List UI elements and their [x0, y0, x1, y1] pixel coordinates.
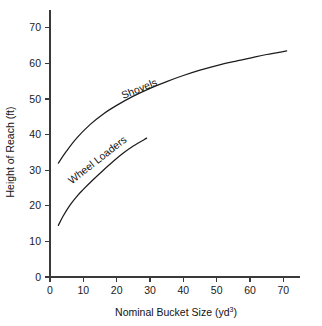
series-group: [58, 51, 286, 225]
x-tick-label: 50: [211, 284, 223, 296]
x-tick-label: 70: [277, 284, 289, 296]
y-tick-label: 20: [29, 199, 41, 211]
y-tick-labels-group: 010203040506070: [29, 21, 41, 282]
y-tick-label: 10: [29, 235, 41, 247]
x-tick-label: 10: [77, 284, 89, 296]
y-tick-label: 30: [29, 164, 41, 176]
x-tick-label: 40: [177, 284, 189, 296]
x-tick-labels-group: 010203040506070: [47, 284, 289, 296]
x-axis-title: Nominal Bucket Size (yd3): [115, 306, 237, 318]
series-curve-shovels: [58, 51, 286, 163]
x-axis-title-base: Nominal Bucket Size (yd: [115, 306, 230, 318]
y-tick-label: 40: [29, 128, 41, 140]
x-tick-label: 0: [47, 284, 53, 296]
x-axis-title-suffix: ): [233, 306, 237, 318]
y-tick-label: 0: [35, 271, 41, 283]
x-tick-label: 30: [144, 284, 156, 296]
series-labels-group: ShovelsWheel Loaders: [66, 76, 159, 186]
y-tick-label: 70: [29, 21, 41, 33]
x-tick-label: 60: [244, 284, 256, 296]
y-axis-title: Height of Reach (ft): [4, 106, 16, 197]
chart-plot: 010203040506070 010203040506070 ShovelsW…: [0, 0, 322, 326]
x-tick-label: 20: [111, 284, 123, 296]
axes-group: [45, 10, 300, 282]
series-label-shovels: Shovels: [120, 76, 159, 101]
chart-container: 010203040506070 010203040506070 ShovelsW…: [0, 0, 322, 326]
y-tick-label: 60: [29, 57, 41, 69]
y-tick-label: 50: [29, 93, 41, 105]
